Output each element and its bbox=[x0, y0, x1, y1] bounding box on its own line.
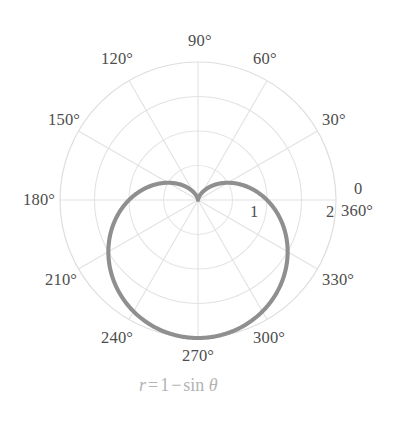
angle-label-90: 90° bbox=[188, 33, 212, 50]
angle-label-180: 180° bbox=[23, 192, 55, 209]
angle-label-240: 240° bbox=[101, 330, 133, 347]
caption-lhs: r bbox=[139, 375, 146, 395]
radial-label-1: 1 bbox=[250, 204, 258, 221]
angle-label-210: 210° bbox=[45, 272, 77, 289]
radial-label-2: 2 bbox=[326, 204, 334, 221]
angle-label-30: 30° bbox=[322, 112, 346, 129]
equation-caption: r=1−sin θ bbox=[139, 376, 218, 394]
angle-label-330: 330° bbox=[322, 272, 354, 289]
caption-variable: θ bbox=[209, 375, 218, 395]
caption-equals: = bbox=[146, 375, 160, 395]
angle-label-150: 150° bbox=[48, 112, 80, 129]
angle-label-0: 0 bbox=[354, 181, 362, 198]
caption-const: 1 bbox=[160, 375, 169, 395]
angle-label-300: 300° bbox=[253, 330, 285, 347]
caption-minus: − bbox=[169, 375, 183, 395]
angle-label-360: 360° bbox=[341, 203, 373, 220]
angle-label-120: 120° bbox=[101, 51, 133, 68]
polar-chart-figure: 90° 120° 60° 150° 30° 180° 0 360° 210° 3… bbox=[0, 0, 398, 429]
angle-label-60: 60° bbox=[253, 51, 277, 68]
caption-function: sin bbox=[183, 375, 204, 395]
angle-label-270: 270° bbox=[182, 348, 214, 365]
